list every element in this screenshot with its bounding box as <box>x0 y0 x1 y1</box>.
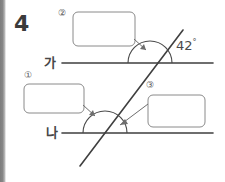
angle-measure-label: 42° <box>176 38 197 53</box>
answer-box-3[interactable] <box>148 95 205 127</box>
line-label-na: 나 <box>46 122 58 141</box>
answer-box-2[interactable] <box>73 12 135 46</box>
answer-box-1[interactable] <box>24 84 84 113</box>
angle-measure-number: 42 <box>176 38 193 53</box>
leader-arrow-2 <box>134 39 146 50</box>
worksheet-figure: 4 가 나 <box>0 0 225 182</box>
callout-marker-2: ② <box>58 8 66 18</box>
degree-symbol: ° <box>193 38 197 47</box>
leader-arrow-1 <box>83 105 95 116</box>
line-label-ga: 가 <box>44 52 56 71</box>
geometry-diagram <box>0 0 225 182</box>
callout-marker-1: ① <box>24 70 32 80</box>
callout-marker-3: ③ <box>146 80 154 90</box>
